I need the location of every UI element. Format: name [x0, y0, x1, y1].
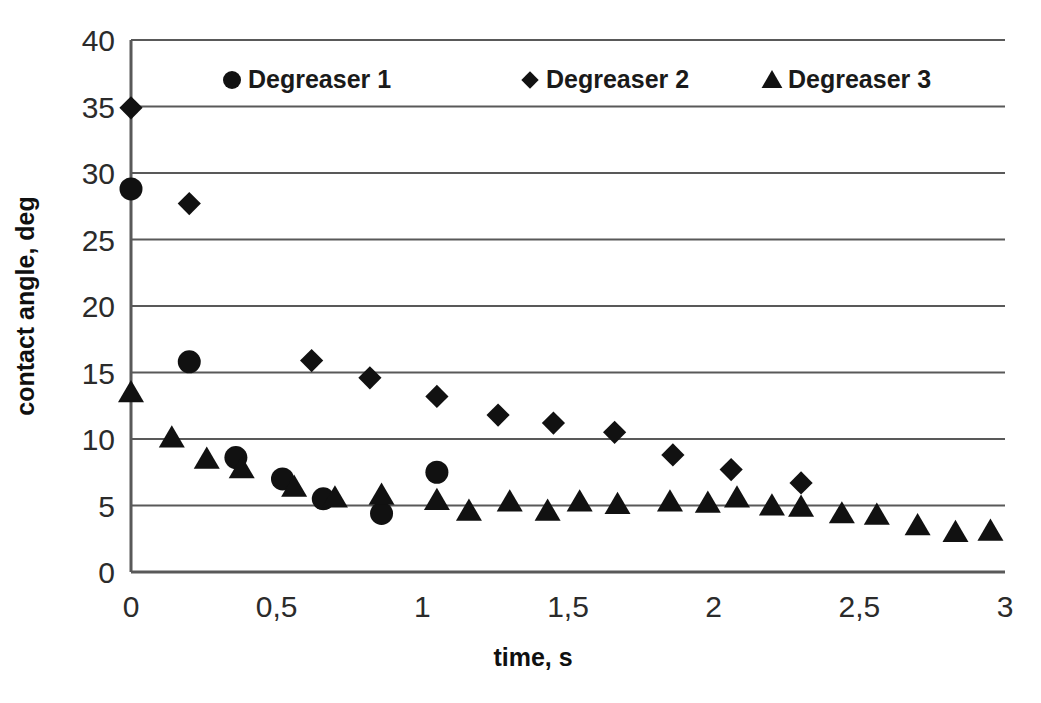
x-tick-label: 0 [123, 590, 140, 623]
series-degreaser-1 [120, 177, 449, 525]
data-point-triangle [724, 485, 750, 507]
x-tick-label: 1 [414, 590, 431, 623]
scatter-plot-canvas: 051015202530354000,511,522,53contact ang… [0, 0, 1041, 703]
y-tick-label: 30 [82, 157, 115, 190]
data-point-circle [120, 177, 143, 200]
y-tick-label: 20 [82, 290, 115, 323]
legend-marker-circle-icon [223, 71, 241, 89]
gridlines [131, 40, 1005, 506]
y-tick-label: 35 [82, 91, 115, 124]
series-degreaser-3 [118, 380, 1003, 542]
legend-item-1[interactable]: Degreaser 1 [223, 65, 391, 93]
data-point-triangle [942, 520, 968, 542]
data-point-triangle [194, 447, 220, 469]
x-tick-label: 1,5 [547, 590, 589, 623]
data-point-triangle [497, 489, 523, 511]
data-point-triangle [567, 489, 593, 511]
data-point-diamond [720, 458, 743, 481]
legend-label: Degreaser 2 [546, 65, 689, 93]
data-point-diamond [119, 96, 142, 119]
data-point-diamond [358, 366, 381, 389]
data-point-triangle [905, 513, 931, 535]
data-point-triangle [118, 380, 144, 402]
data-point-triangle [759, 493, 785, 515]
y-axis-title: contact angle, deg [11, 196, 39, 415]
y-tick-label: 5 [98, 490, 115, 523]
data-point-diamond [178, 192, 201, 215]
data-point-diamond [486, 403, 509, 426]
x-tick-label: 2,5 [838, 590, 880, 623]
data-point-circle [425, 461, 448, 484]
legend-label: Degreaser 1 [248, 65, 391, 93]
data-point-triangle [535, 498, 561, 520]
data-point-triangle [369, 483, 395, 505]
x-axis-title: time, s [493, 643, 572, 671]
data-point-circle [178, 350, 201, 373]
data-point-circle [370, 502, 393, 525]
data-point-triangle [977, 518, 1003, 540]
y-tick-labels: 0510152025303540 [82, 24, 115, 589]
data-point-triangle [657, 489, 683, 511]
x-tick-labels: 00,511,522,53 [123, 590, 1014, 623]
y-tick-label: 25 [82, 224, 115, 257]
data-point-diamond [603, 421, 626, 444]
series-degreaser-2 [119, 96, 812, 494]
legend-marker-diamond-icon [521, 71, 538, 88]
data-point-diamond [300, 349, 323, 372]
data-point-triangle [695, 490, 721, 512]
x-tick-label: 0,5 [256, 590, 298, 623]
y-tick-label: 40 [82, 24, 115, 57]
data-point-triangle [159, 425, 185, 447]
legend-item-2[interactable]: Degreaser 2 [521, 65, 689, 93]
data-point-triangle [424, 488, 450, 510]
legend: Degreaser 1Degreaser 2Degreaser 3 [223, 65, 931, 93]
chart-figure: 051015202530354000,511,522,53contact ang… [0, 0, 1041, 703]
y-tick-label: 15 [82, 357, 115, 390]
data-point-triangle [829, 501, 855, 523]
y-tick-label: 0 [98, 556, 115, 589]
legend-item-3[interactable]: Degreaser 3 [762, 65, 932, 93]
legend-label: Degreaser 3 [788, 65, 931, 93]
data-point-diamond [542, 411, 565, 434]
data-point-diamond [661, 443, 684, 466]
data-point-triangle [605, 492, 631, 514]
data-point-diamond [789, 471, 812, 494]
x-tick-label: 3 [997, 590, 1014, 623]
x-tick-label: 2 [705, 590, 722, 623]
data-point-triangle [456, 498, 482, 520]
data-point-diamond [425, 385, 448, 408]
legend-marker-triangle-icon [762, 70, 783, 88]
y-tick-label: 10 [82, 423, 115, 456]
